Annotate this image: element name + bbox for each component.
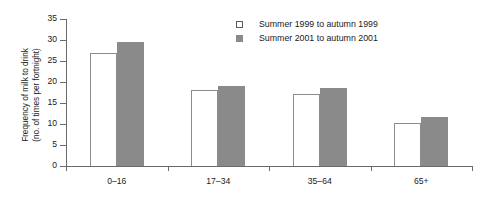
y-tick-label: 5 xyxy=(52,139,57,150)
chart-legend: Summer 1999 to autumn 1999Summer 2001 to… xyxy=(236,19,378,44)
bar xyxy=(320,88,347,166)
y-axis-title: Frequency of milk to drink (no. of times… xyxy=(14,15,48,175)
y-tick-label: 30 xyxy=(47,34,57,45)
x-tick-mark xyxy=(269,166,270,171)
x-axis-label: 0–16 xyxy=(107,175,126,187)
bar xyxy=(421,117,448,166)
legend-label: Summer 1999 to autumn 1999 xyxy=(259,19,378,30)
x-axis-label: 17–34 xyxy=(206,175,230,187)
x-tick-mark xyxy=(472,166,473,171)
bar xyxy=(191,90,218,166)
y-tick-label: 25 xyxy=(47,55,57,66)
y-tick-mark xyxy=(60,145,66,146)
y-axis-line xyxy=(66,19,67,166)
y-tick-label: 10 xyxy=(47,118,57,129)
legend-swatch-icon xyxy=(236,35,243,42)
y-tick-mark xyxy=(60,82,66,83)
x-tick-mark xyxy=(168,166,169,171)
legend-item: Summer 1999 to autumn 1999 xyxy=(236,19,378,30)
y-tick-label: 15 xyxy=(47,97,57,108)
y-tick-mark xyxy=(60,19,66,20)
y-tick-label: 0 xyxy=(52,160,57,171)
legend-label: Summer 2001 to autumn 2001 xyxy=(259,33,378,44)
bar xyxy=(293,94,320,166)
y-axis-title-line-1: Frequency of milk to drink xyxy=(20,48,31,142)
y-tick-mark xyxy=(60,103,66,104)
x-axis-label: 65+ xyxy=(414,175,429,187)
legend-item: Summer 2001 to autumn 2001 xyxy=(236,33,378,44)
legend-swatch-icon xyxy=(236,21,243,28)
bar xyxy=(394,123,421,166)
x-axis-label: 35–64 xyxy=(308,175,332,187)
y-axis-title-line-2: (no. of times per fortnight) xyxy=(31,48,42,142)
bar xyxy=(117,42,144,166)
bar-chart: Frequency of milk to drink (no. of times… xyxy=(0,0,483,198)
y-tick-mark xyxy=(60,61,66,62)
bar xyxy=(90,53,117,166)
x-axis-line xyxy=(60,166,472,167)
bar xyxy=(218,86,245,166)
y-tick-label: 20 xyxy=(47,76,57,87)
y-tick-label: 35 xyxy=(47,13,57,24)
x-tick-mark xyxy=(66,166,67,171)
x-tick-mark xyxy=(371,166,372,171)
y-tick-mark xyxy=(60,40,66,41)
y-tick-mark xyxy=(60,124,66,125)
